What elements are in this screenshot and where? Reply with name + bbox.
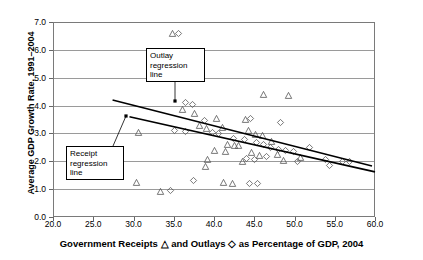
x-axis-title-text: Government Receipts △ and Outlays ◇ as P… (60, 238, 364, 249)
data-point-diamond (263, 153, 270, 160)
x-tick-mark (335, 217, 336, 221)
data-point-triangle (179, 106, 186, 113)
gridline (54, 50, 374, 51)
y-axis-title: Average GDP Growth Rate, 1991–2004 (26, 23, 36, 203)
x-tick-label: 30.0 (119, 220, 149, 229)
data-point-diamond (171, 127, 178, 134)
callout-outlay-regression-line: Outlay regression line (146, 48, 205, 82)
data-point-diamond (182, 128, 189, 135)
callout-outlay-line3: line (150, 70, 201, 80)
data-point-diamond (247, 115, 254, 122)
gridline (54, 189, 374, 190)
y-tick-mark (49, 22, 53, 23)
x-axis-title: Government Receipts △ and Outlays ◇ as P… (0, 238, 423, 249)
data-point-diamond (189, 101, 196, 108)
data-point-diamond (190, 177, 197, 184)
data-point-diamond (246, 180, 253, 187)
data-point-diamond (215, 130, 222, 137)
y-tick-mark (49, 161, 53, 162)
y-tick-mark (49, 189, 53, 190)
data-point-diamond (251, 156, 258, 163)
callout-outlay-line1: Outlay (150, 51, 201, 61)
x-tick-label: 50.0 (280, 220, 310, 229)
data-point-diamond (326, 162, 333, 169)
callout-receipt-regression-line: Receipt regression line (66, 146, 124, 180)
data-point-diamond (201, 117, 208, 124)
data-point-diamond (260, 141, 267, 148)
data-point-triangle (222, 148, 229, 155)
data-point-diamond (275, 146, 282, 153)
x-tick-label: 20.0 (38, 220, 68, 229)
data-point-triangle (280, 157, 287, 164)
data-point-triangle (213, 115, 220, 122)
data-point-triangle (285, 92, 292, 99)
data-point-triangle (204, 156, 211, 163)
x-tick-mark (375, 217, 376, 221)
y-tick-mark (49, 133, 53, 134)
data-point-triangle (157, 188, 164, 195)
scatter-chart: 0.01.02.03.04.05.06.07.0 20.025.030.035.… (0, 0, 423, 260)
data-point-diamond (282, 147, 289, 154)
data-point-triangle (259, 132, 266, 139)
gridline (54, 106, 374, 107)
data-point-triangle (229, 180, 236, 187)
data-point-diamond (175, 30, 182, 37)
data-point-triangle (235, 142, 242, 149)
callout-outlay-line2: regression (150, 61, 201, 71)
x-tick-mark (134, 217, 135, 221)
data-point-diamond (241, 136, 248, 143)
data-point-triangle (133, 179, 140, 186)
x-tick-label: 60.0 (360, 220, 390, 229)
x-tick-label: 55.0 (320, 220, 350, 229)
callout-receipt-line3: line (70, 168, 120, 178)
x-tick-mark (93, 217, 94, 221)
data-point-diamond (277, 119, 284, 126)
data-point-triangle (252, 131, 259, 138)
x-tick-mark (214, 217, 215, 221)
x-tick-label: 25.0 (78, 220, 108, 229)
data-point-triangle (202, 163, 209, 170)
x-tick-label: 35.0 (159, 220, 189, 229)
data-point-triangle (135, 129, 142, 136)
data-point-triangle (260, 91, 267, 98)
y-tick-mark (49, 106, 53, 107)
data-point-diamond (346, 158, 353, 165)
data-point-diamond (167, 187, 174, 194)
x-tick-label: 45.0 (239, 220, 269, 229)
y-tick-mark (49, 50, 53, 51)
data-point-diamond (267, 144, 274, 151)
data-point-diamond (243, 155, 250, 162)
y-tick-mark (49, 78, 53, 79)
data-point-diamond (306, 144, 313, 151)
data-point-diamond (290, 148, 297, 155)
x-tick-mark (254, 217, 255, 221)
callout-receipt-line2: regression (70, 159, 120, 169)
gridline (54, 78, 374, 79)
data-point-triangle (211, 147, 218, 154)
data-point-triangle (220, 179, 227, 186)
x-tick-mark (295, 217, 296, 221)
data-point-diamond (230, 135, 237, 142)
x-tick-mark (174, 217, 175, 221)
x-tick-mark (53, 217, 54, 221)
callout-receipt-line1: Receipt (70, 149, 120, 159)
data-point-diamond (254, 180, 261, 187)
data-point-diamond (294, 158, 301, 165)
x-tick-label: 40.0 (199, 220, 229, 229)
data-point-triangle (191, 110, 198, 117)
